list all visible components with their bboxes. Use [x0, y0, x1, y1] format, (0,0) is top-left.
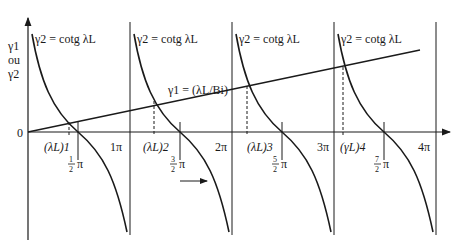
- svg-text:π: π: [77, 157, 83, 171]
- svg-text:7: 7: [375, 155, 379, 164]
- y-axis-label-ou: ou: [8, 53, 20, 67]
- curve-label-4: γ2 = cotg λL: [340, 32, 402, 46]
- root-label-2: (λL)2: [143, 140, 169, 154]
- svg-text:1: 1: [69, 155, 73, 164]
- fraction-half-pi-7: 7 2 π: [374, 155, 389, 174]
- svg-text:π: π: [383, 157, 389, 171]
- half-pi-ticks: [78, 122, 384, 160]
- svg-text:π: π: [281, 157, 287, 171]
- root-label-1: (λL)1: [44, 140, 70, 154]
- svg-text:π: π: [179, 157, 185, 171]
- root-label-4: (γL)4: [340, 140, 365, 154]
- tick-label-4pi: 4π: [418, 140, 430, 154]
- curve-label-3: γ2 = cotg λL: [238, 32, 300, 46]
- svg-text:5: 5: [273, 155, 277, 164]
- fraction-half-pi-1: 1 2 π: [68, 155, 83, 174]
- svg-text:2: 2: [273, 165, 277, 174]
- y-axis-label-gamma1: γ1: [7, 39, 19, 53]
- fraction-half-pi-5: 5 2 π: [272, 155, 287, 174]
- tick-label-1pi: 1π: [110, 140, 122, 154]
- curve-label-2: γ2 = cotg λL: [136, 32, 198, 46]
- curve-label-1: γ2 = cotg λL: [34, 32, 96, 46]
- y-axis-label-gamma2: γ2: [7, 67, 19, 81]
- tick-label-3pi: 3π: [317, 140, 329, 154]
- svg-text:2: 2: [171, 165, 175, 174]
- cotangent-intersection-diagram: γ1 ou γ2 0 γ2 = cotg λL γ2 = cotg λL γ2 …: [0, 0, 461, 246]
- fraction-half-pi-3: 3 2 π: [170, 155, 185, 174]
- intersection-drops: [69, 67, 343, 135]
- origin-label: 0: [17, 126, 23, 140]
- svg-text:2: 2: [375, 165, 379, 174]
- tick-label-2pi: 2π: [215, 140, 227, 154]
- svg-text:2: 2: [69, 165, 73, 174]
- line-label: γ1 = (λL/Bi): [167, 83, 228, 97]
- svg-text:3: 3: [171, 155, 175, 164]
- root-label-3: (λL)3: [247, 140, 273, 154]
